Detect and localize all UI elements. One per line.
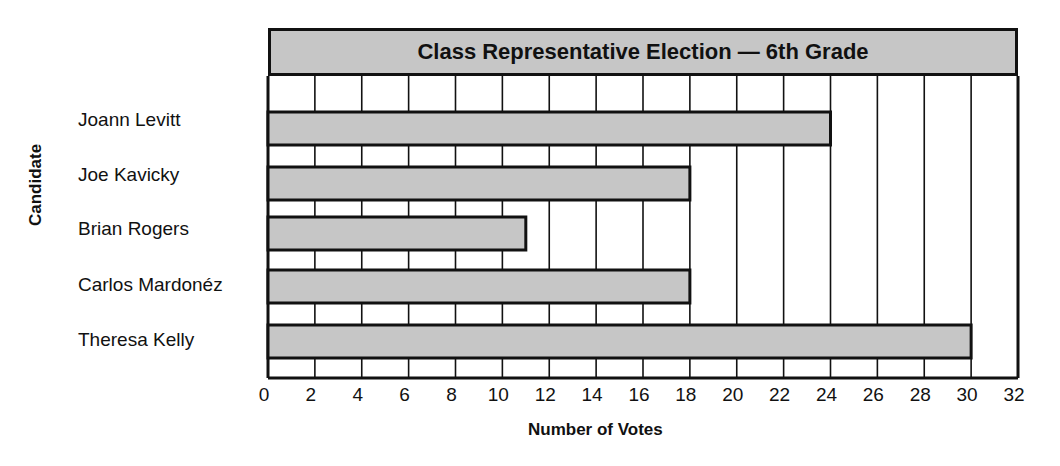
bar-chart: Class Representative Election — 6th Grad… xyxy=(0,0,1060,466)
x-tick-label: 16 xyxy=(628,384,649,406)
x-axis-label: Number of Votes xyxy=(528,420,663,440)
x-tick-label: 22 xyxy=(769,384,790,406)
candidate-label: Theresa Kelly xyxy=(78,329,194,351)
bar-joe-kavicky xyxy=(268,167,690,200)
x-tick-label: 18 xyxy=(675,384,696,406)
x-tick-label: 24 xyxy=(816,384,837,406)
candidate-label: Carlos Mardonéz xyxy=(78,274,223,296)
x-tick-label: 0 xyxy=(259,384,270,406)
bar-theresa-kelly xyxy=(268,325,971,358)
bar-carlos-mardon-z xyxy=(268,270,690,303)
candidate-label: Joann Levitt xyxy=(78,109,180,131)
x-tick-label: 10 xyxy=(488,384,509,406)
x-tick-label: 32 xyxy=(1003,384,1024,406)
x-tick-label: 4 xyxy=(352,384,363,406)
x-tick-label: 2 xyxy=(306,384,317,406)
candidate-label: Joe Kavicky xyxy=(78,164,179,186)
x-tick-label: 30 xyxy=(957,384,978,406)
candidate-label: Brian Rogers xyxy=(78,218,189,240)
bar-brian-rogers xyxy=(268,217,526,250)
x-tick-label: 28 xyxy=(910,384,931,406)
bar-joann-levitt xyxy=(268,112,831,145)
x-tick-label: 8 xyxy=(446,384,457,406)
x-tick-label: 6 xyxy=(399,384,410,406)
y-axis-label: Candidate xyxy=(26,144,46,226)
x-tick-label: 12 xyxy=(535,384,556,406)
x-tick-label: 20 xyxy=(722,384,743,406)
x-tick-label: 14 xyxy=(582,384,603,406)
x-tick-label: 26 xyxy=(863,384,884,406)
